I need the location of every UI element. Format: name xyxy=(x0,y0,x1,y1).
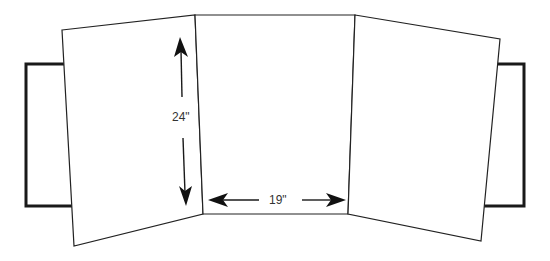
center-panel xyxy=(195,15,355,214)
right-panel xyxy=(348,15,500,241)
width-label: 19" xyxy=(269,193,287,207)
height-arrow-upper-line xyxy=(181,50,182,97)
height-label: 24" xyxy=(172,110,190,124)
